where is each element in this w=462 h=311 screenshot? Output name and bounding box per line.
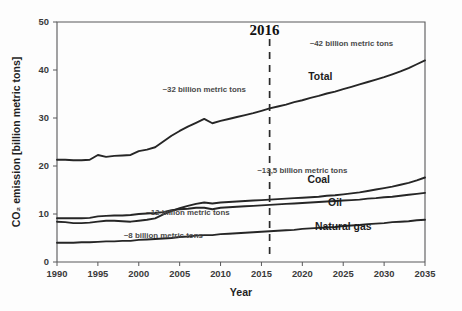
x-tick-label-2035: 2035 — [415, 268, 436, 279]
series-label-oil: Oil — [328, 197, 342, 208]
series-line-total — [57, 60, 425, 160]
annotation-total-historical: ~32 billion metric tons — [162, 85, 246, 94]
y-tick-label-20: 20 — [39, 160, 49, 171]
co2-emission-line-chart: 01020304050 1990199520002005201020152020… — [0, 0, 462, 311]
annotation-gas-2016: ~8 billion metric tons — [124, 231, 204, 240]
x-tick-label-2015: 2015 — [251, 268, 272, 279]
x-tick-label-2020: 2020 — [292, 268, 313, 279]
x-tick-label-2005: 2005 — [169, 268, 190, 279]
annotation-oil-2016: ~12 billion metric tons — [146, 208, 230, 217]
y-tick-label-40: 40 — [39, 64, 49, 75]
x-axis-ticks — [57, 262, 425, 266]
y-tick-label-0: 0 — [44, 256, 49, 267]
annotation-coal-2016: ~13,5 billion metric tons — [257, 166, 348, 175]
x-tick-label-1995: 1995 — [87, 268, 108, 279]
y-tick-label-10: 10 — [39, 208, 49, 219]
x-tick-label-1990: 1990 — [47, 268, 68, 279]
y-tick-label-50: 50 — [39, 16, 49, 27]
series-label-total: Total — [308, 71, 332, 82]
x-tick-label-2000: 2000 — [128, 268, 149, 279]
y-axis-tick-labels: 01020304050 — [39, 16, 49, 267]
chart-figure: 01020304050 1990199520002005201020152020… — [0, 0, 462, 311]
x-tick-label-2030: 2030 — [374, 268, 395, 279]
y-tick-label-30: 30 — [39, 112, 49, 123]
series-label-coal: Coal — [307, 174, 330, 185]
x-tick-label-2025: 2025 — [333, 268, 354, 279]
y-axis-title: CO₂ emission [billion metric tons] — [10, 57, 22, 228]
series-line-oil — [57, 193, 425, 218]
x-axis-title: Year — [230, 286, 252, 298]
annotation-total-projected: ~42 billion metric tons — [310, 39, 394, 48]
year-2016-marker-label: 2016 — [250, 22, 281, 38]
y-axis-ticks — [53, 22, 57, 262]
series-inline-labels: TotalCoalOilNatural gas — [307, 71, 371, 233]
x-axis-tick-labels: 1990199520002005201020152020202520302035 — [47, 268, 436, 279]
series-label-natural-gas: Natural gas — [315, 221, 372, 232]
x-tick-label-2010: 2010 — [210, 268, 231, 279]
